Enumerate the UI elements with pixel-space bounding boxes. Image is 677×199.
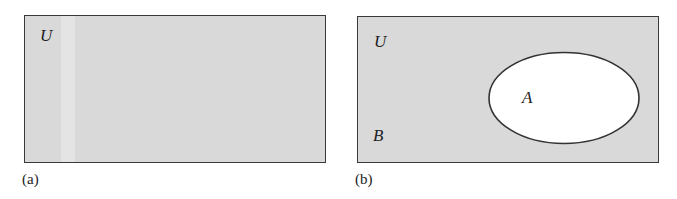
panel-b-complement-label: B bbox=[373, 126, 383, 146]
panel-b-set-a-ellipse bbox=[0, 0, 677, 199]
panel-b-caption: (b) bbox=[355, 171, 373, 188]
panel-b-set-a-label: A bbox=[522, 88, 532, 108]
panel-b-universe-label: U bbox=[374, 32, 386, 52]
